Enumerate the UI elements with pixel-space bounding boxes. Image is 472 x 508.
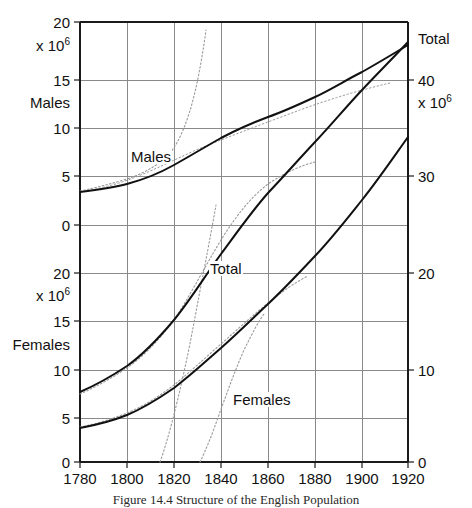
left-lower-ticks — [74, 273, 80, 462]
left-upper-unit-text: x 10 — [36, 37, 64, 54]
left-upper-tick-5: 5 — [24, 169, 70, 184]
x-axis-tick-1800: 1800 — [105, 471, 149, 486]
x-axis-ticks — [80, 462, 408, 468]
x-axis-tick-1840: 1840 — [199, 471, 243, 486]
right-axis-tick-30: 30 — [418, 169, 435, 184]
x-axis-tick-1920: 1920 — [386, 471, 430, 486]
left-upper-unit: x 106 — [24, 38, 70, 53]
right-axis-tick-10: 10 — [418, 363, 435, 378]
curve-males-dotted — [80, 30, 206, 191]
right-axis-tick-20: 20 — [418, 266, 435, 281]
right-axis-unit-text: x 10 — [418, 94, 446, 111]
right-axis-tick-40: 40 — [418, 73, 435, 88]
inline-label-males: Males — [130, 149, 172, 164]
left-lower-tick-0: 0 — [24, 455, 70, 470]
curve-females-dotted-upper — [200, 314, 264, 462]
left-lower-tick-15: 15 — [24, 314, 70, 329]
right-axis-unit-exponent: 6 — [446, 93, 452, 104]
left-lower-tick-20: 20 — [24, 266, 70, 281]
left-lower-unit: x 106 — [24, 288, 70, 303]
curve-total-solid — [80, 42, 408, 392]
left-lower-unit-text: x 10 — [36, 287, 64, 304]
figure-caption: Figure 14.4 Structure of the English Pop… — [0, 492, 472, 508]
left-lower-unit-exponent: 6 — [64, 286, 70, 297]
left-upper-unit-exponent: 6 — [64, 36, 70, 47]
left-upper-tick-0: 0 — [24, 218, 70, 233]
right-axis-series-name: Total — [418, 31, 450, 46]
left-upper-series-name: Males — [6, 95, 70, 110]
right-axis-tick-0: 0 — [418, 455, 426, 470]
curve-total-dotted-upper — [160, 205, 216, 462]
left-lower-tick-5: 5 — [24, 411, 70, 426]
inline-label-females: Females — [232, 392, 292, 407]
left-upper-ticks — [74, 22, 80, 225]
x-axis-tick-1780: 1780 — [58, 471, 102, 486]
curve-males-solid — [80, 45, 408, 192]
left-lower-tick-10: 10 — [24, 363, 70, 378]
x-axis-tick-1820: 1820 — [152, 471, 196, 486]
left-lower-series-name: Females — [0, 337, 70, 352]
left-upper-tick-15: 15 — [24, 73, 70, 88]
curve-total-dotted — [80, 162, 315, 394]
inline-label-total: Total — [209, 261, 243, 276]
right-axis-unit: x 106 — [418, 95, 452, 110]
left-upper-tick-10: 10 — [24, 121, 70, 136]
left-upper-tick-20: 20 — [24, 15, 70, 30]
curve-females-solid — [80, 137, 408, 428]
x-axis-tick-1880: 1880 — [293, 471, 337, 486]
x-axis-tick-1860: 1860 — [246, 471, 290, 486]
x-axis-tick-1900: 1900 — [340, 471, 384, 486]
